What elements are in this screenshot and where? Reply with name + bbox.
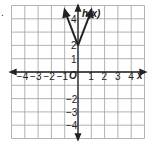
- x-axis-label: x: [136, 70, 143, 81]
- y-tick-label: 4: [71, 14, 77, 25]
- x-tick-label: 2: [102, 71, 108, 82]
- function-label: h(x): [82, 8, 101, 19]
- problem-marker: .: [1, 7, 4, 18]
- x-tick-label: 3: [115, 71, 121, 82]
- x-tick-label: −2: [43, 71, 55, 82]
- graph: −4−3−2−11234 421−2−3−4 . O x h(x): [0, 0, 150, 145]
- x-tick-label: −1: [57, 71, 69, 82]
- x-tick-label: 4: [128, 71, 134, 82]
- x-tick-label: 1: [88, 71, 94, 82]
- origin-label: O: [69, 70, 77, 81]
- y-tick-label: −3: [66, 107, 78, 118]
- y-tick-label: −2: [66, 94, 78, 105]
- x-tick-label: −4: [17, 71, 29, 82]
- y-tick-label: 2: [71, 40, 77, 51]
- x-tick-label: −3: [30, 71, 42, 82]
- y-tick-label: 1: [71, 54, 77, 65]
- y-tick-label: −4: [66, 120, 78, 131]
